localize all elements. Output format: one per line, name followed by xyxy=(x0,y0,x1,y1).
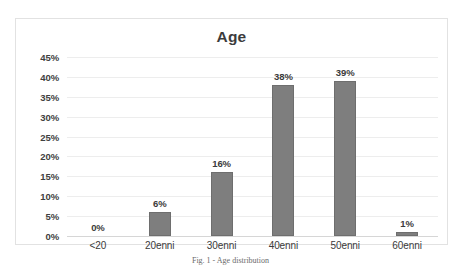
bar-slot: 38% xyxy=(252,57,314,236)
bar-slot: 1% xyxy=(376,57,438,236)
y-axis-tick-label: 10% xyxy=(40,191,59,202)
y-axis-tick-label: 25% xyxy=(40,131,59,142)
bar[interactable] xyxy=(272,85,294,236)
bar-value-label: 38% xyxy=(274,71,293,82)
y-axis-tick-label: 0% xyxy=(45,231,59,242)
bar-slot: 16% xyxy=(191,57,253,236)
bar[interactable] xyxy=(211,172,233,236)
bar-slot: 39% xyxy=(314,57,376,236)
y-axis-tick-label: 20% xyxy=(40,151,59,162)
bar-value-label: 1% xyxy=(400,218,414,229)
y-axis-tick-label: 35% xyxy=(40,91,59,102)
chart-title: Age xyxy=(16,28,447,46)
chart-frame: Age 0%5%10%15%20%25%30%35%40%45% 0%6%16%… xyxy=(15,18,448,245)
bar-series: 0%6%16%38%39%1% xyxy=(67,57,438,236)
bar[interactable] xyxy=(149,212,171,236)
y-axis-tick-label: 30% xyxy=(40,111,59,122)
bar-slot: 0% xyxy=(67,57,129,236)
y-axis-tick-label: 5% xyxy=(45,211,59,222)
bar-value-label: 39% xyxy=(336,67,355,78)
bar[interactable] xyxy=(334,81,356,236)
y-axis-tick-label: 40% xyxy=(40,71,59,82)
plot-area: 0%6%16%38%39%1% xyxy=(67,57,438,236)
y-axis-tick-label: 15% xyxy=(40,171,59,182)
y-axis: 0%5%10%15%20%25%30%35%40%45% xyxy=(16,57,63,236)
y-axis-tick-label: 45% xyxy=(40,52,59,63)
bar-value-label: 16% xyxy=(212,158,231,169)
figure-caption: Fig. 1 - Age distribution xyxy=(0,256,461,265)
axis-baseline xyxy=(67,236,438,237)
bar-value-label: 6% xyxy=(153,198,167,209)
bar[interactable] xyxy=(396,232,418,236)
bar-slot: 6% xyxy=(129,57,191,236)
bar-value-label: 0% xyxy=(91,222,105,233)
